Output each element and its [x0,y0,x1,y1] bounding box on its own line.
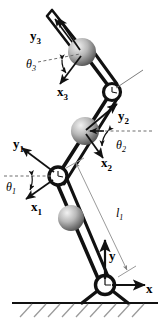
label-y2-sub: 2 [125,116,130,126]
link-mass-sphere-3 [68,38,96,66]
label-y0: y [109,248,116,264]
label-theta1: θ1 [6,180,16,196]
link-1 [53,172,110,283]
label-y1-sub: 1 [20,144,25,154]
theta2-arc [102,131,108,146]
ground-hatching [20,304,144,317]
label-x2-sub: 2 [108,163,113,173]
label-x2: x2 [101,155,112,173]
label-y1: y1 [13,136,24,154]
theta3-arc [62,60,66,73]
diagram-canvas [0,0,163,330]
label-x3: x3 [57,84,68,102]
label-x0-symbol: x [146,281,153,296]
kinematic-diagram-figure: y3 x3 θ3 y2 x2 θ2 y1 x1 θ1 l1 y x [0,0,163,330]
joint-2 [104,84,121,101]
label-theta3-sub: 3 [32,64,36,73]
label-theta2: θ2 [116,138,126,154]
label-x3-sub: 3 [64,92,69,102]
label-y3: y3 [30,28,41,46]
label-x0: x [146,281,153,297]
label-y0-symbol: y [109,248,116,263]
y1-axis-arrow [22,148,54,172]
theta1-arc [30,176,32,190]
x3-axis-arrow [60,56,81,84]
label-x1: x1 [31,199,42,217]
label-l1: l1 [116,206,123,222]
label-y2: y2 [118,108,129,126]
label-theta2-sub: 2 [122,145,126,154]
l1-extension-lower [118,266,136,277]
label-x1-sub: 1 [38,207,43,217]
label-y3-sub: 3 [37,36,42,46]
label-theta3: θ3 [26,57,36,73]
ground-group [12,285,158,317]
link-mass-sphere-1 [58,205,84,231]
joint-2-leader-line [116,70,143,88]
label-theta1-sub: 1 [12,187,16,196]
label-l1-sub: 1 [119,213,123,222]
